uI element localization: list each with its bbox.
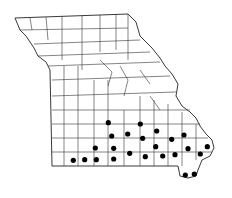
county-dot (143, 154, 148, 159)
county-dot (153, 144, 158, 149)
county-dot (127, 151, 132, 156)
county-dot (154, 128, 159, 133)
county-dot (93, 145, 98, 150)
county-dot (140, 136, 145, 141)
county-dot (185, 146, 190, 151)
state-outline (15, 14, 214, 178)
county-dot (198, 151, 203, 156)
county-dot (181, 132, 186, 137)
county-dot (172, 152, 177, 157)
county-dot (71, 158, 76, 163)
county-dot (94, 157, 99, 162)
missouri-county-map (0, 0, 232, 198)
county-lines (20, 14, 212, 166)
county-dot (111, 146, 116, 151)
county-dot (138, 121, 143, 126)
county-dot (183, 172, 188, 177)
county-dot (205, 144, 210, 149)
county-dot (82, 157, 87, 162)
county-dot (125, 131, 130, 136)
county-dot (192, 171, 197, 176)
county-dot (169, 137, 174, 142)
county-dot (109, 133, 114, 138)
county-dot (160, 153, 165, 158)
county-dot (111, 156, 116, 161)
county-dot (106, 120, 111, 125)
